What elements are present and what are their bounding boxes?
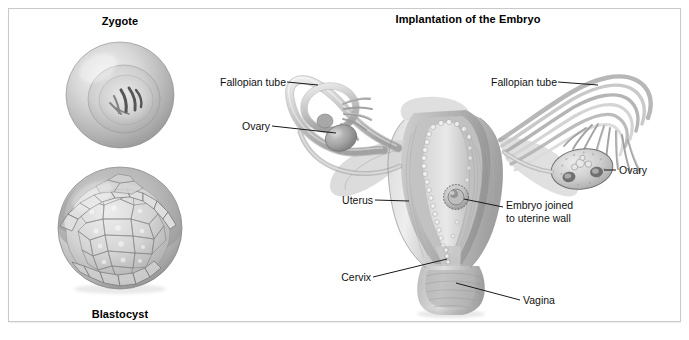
anatomy-illustration [0, 0, 689, 340]
label-fallopian-tube-right: Fallopian tube [449, 76, 557, 89]
label-ovary-left: Ovary [180, 120, 270, 133]
right-fallopian-tube-and-ovary [498, 76, 651, 196]
label-cervix: Cervix [295, 271, 371, 284]
embryo-implantation-site [444, 185, 469, 210]
label-uterus: Uterus [295, 194, 373, 207]
left-fallopian-tube-and-ovary [289, 78, 404, 197]
label-fallopian-tube-left: Fallopian tube [178, 76, 286, 89]
label-embryo-implantation: Embryo joined to uterine wall [506, 199, 616, 224]
label-ovary-right: Ovary [619, 164, 679, 177]
label-embryo-line2: to uterine wall [506, 212, 571, 224]
blastocyst-title: Blastocyst [0, 308, 240, 320]
blastocyst-illustration [58, 167, 182, 294]
label-embryo-line1: Embryo joined [506, 199, 573, 211]
figure-root: Zygote Blastocyst Implantation of the Em… [0, 0, 689, 340]
zygote-illustration [66, 42, 174, 148]
main-title: Implantation of the Embryo [248, 13, 688, 25]
label-vagina: Vagina [523, 294, 593, 307]
zygote-title: Zygote [0, 15, 240, 27]
